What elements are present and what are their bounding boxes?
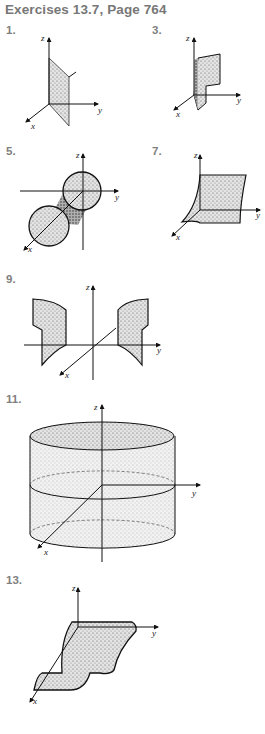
- axis-label-z: z: [75, 150, 80, 160]
- axis-label-x: x: [32, 696, 37, 706]
- figure-1: z y x: [26, 33, 102, 131]
- figure-3: z y x: [174, 33, 241, 119]
- figures-canvas: z y x z y x z y x z y x: [0, 0, 265, 734]
- figure-11: z y x: [30, 402, 200, 562]
- axis-label-z: z: [85, 282, 90, 292]
- axis-label-y: y: [151, 628, 156, 638]
- axis-label-y: y: [114, 192, 119, 202]
- axis-label-z: z: [185, 33, 190, 43]
- figure-9: z y x: [24, 282, 161, 380]
- axis-label-z: z: [40, 33, 45, 43]
- axis-label-y: y: [97, 105, 102, 115]
- figure-13: z y x: [30, 583, 158, 706]
- axis-label-z: z: [193, 150, 198, 160]
- figure-7: z y x: [172, 150, 260, 242]
- axis-label-x: x: [175, 232, 180, 242]
- figure-5: z y x: [20, 150, 119, 254]
- axis-label-x: x: [43, 547, 48, 557]
- axis-label-y: y: [191, 488, 196, 498]
- axis-label-x: x: [175, 109, 180, 119]
- axis-label-z: z: [93, 402, 98, 412]
- axis-label-z: z: [71, 583, 76, 593]
- axis-label-x: x: [30, 121, 35, 131]
- axis-label-x: x: [27, 244, 32, 254]
- axis-label-x: x: [64, 370, 69, 380]
- axis-label-y: y: [236, 95, 241, 105]
- axis-label-y: y: [255, 210, 260, 220]
- axis-label-y: y: [156, 345, 161, 355]
